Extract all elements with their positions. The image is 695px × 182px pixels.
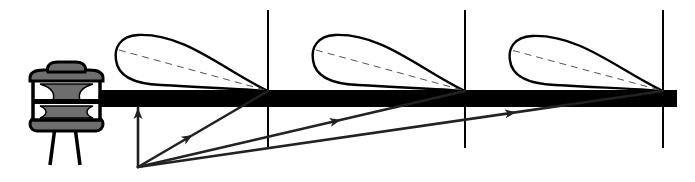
diagram-canvas [0,0,695,182]
radiation-lobe [313,35,465,91]
insulator-arm [100,90,102,107]
insulator-cap [47,62,85,72]
radiation-lobe [116,35,268,91]
insulator-lower-spool [40,106,93,118]
insulator-middle-band [33,99,100,104]
radiation-lobe [510,36,663,91]
conductor-bar [100,90,677,107]
insulator-leg [50,127,55,165]
diagram-svg [0,0,695,182]
radiation-lobes [116,35,663,91]
conductor-bar-rect [100,90,677,107]
insulator-leg [75,127,80,165]
insulator-icon [30,62,103,165]
